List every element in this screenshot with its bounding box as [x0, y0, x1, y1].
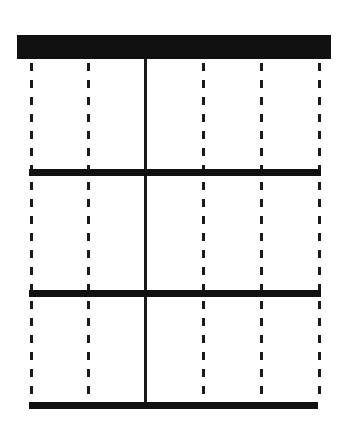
horizontal-rule-bottom: [29, 402, 318, 409]
dashed-vertical-line-2: [87, 63, 90, 403]
dashed-vertical-line-3: [202, 63, 205, 403]
dashed-vertical-line-5: [318, 63, 321, 403]
grid-diagram: [0, 0, 343, 443]
horizontal-rule-2: [29, 290, 321, 297]
top-bar: [17, 35, 331, 59]
dashed-vertical-line-4: [260, 63, 263, 403]
horizontal-rule-1: [29, 169, 321, 176]
dashed-vertical-line-1: [30, 63, 33, 403]
solid-vertical-line: [144, 59, 147, 409]
